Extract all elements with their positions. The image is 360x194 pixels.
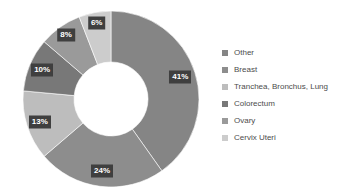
legend-item-label: Colorectum bbox=[234, 99, 275, 108]
slice-data-label: 41% bbox=[169, 70, 191, 83]
legend-item[interactable]: Ovary bbox=[221, 112, 360, 129]
legend-item-label: Other bbox=[234, 48, 254, 57]
slice-data-label: 6% bbox=[88, 16, 106, 29]
legend-item[interactable]: Breast bbox=[221, 61, 360, 78]
legend-item-label: Ovary bbox=[234, 116, 255, 125]
slice-data-label: 24% bbox=[91, 165, 113, 178]
legend-item[interactable]: Cervix Uteri bbox=[221, 129, 360, 146]
legend-swatch-icon bbox=[222, 101, 228, 107]
slice-data-label: 10% bbox=[31, 63, 53, 76]
legend-swatch-icon bbox=[222, 67, 228, 73]
donut-chart: 41%24%13%10%8%6% OtherBreastTranchea, Br… bbox=[0, 0, 360, 194]
slice-data-label: 8% bbox=[57, 29, 75, 42]
legend-item[interactable]: Colorectum bbox=[221, 95, 360, 112]
legend-item-label: Breast bbox=[234, 65, 257, 74]
legend: OtherBreastTranchea, Bronchus, LungColor… bbox=[221, 44, 360, 146]
legend-swatch-icon bbox=[222, 135, 228, 141]
legend-item-label: Cervix Uteri bbox=[234, 133, 276, 142]
legend-item[interactable]: Tranchea, Bronchus, Lung bbox=[221, 78, 360, 95]
slice-data-label: 13% bbox=[29, 115, 51, 128]
donut-plot-area: 41%24%13%10%8%6% bbox=[0, 0, 222, 194]
legend-item-label: Tranchea, Bronchus, Lung bbox=[234, 82, 328, 91]
legend-swatch-icon bbox=[222, 50, 228, 56]
legend-item[interactable]: Other bbox=[221, 44, 360, 61]
legend-swatch-icon bbox=[222, 118, 228, 124]
legend-swatch-icon bbox=[222, 84, 228, 90]
